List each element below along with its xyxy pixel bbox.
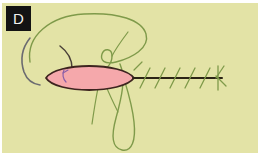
tail-barbs-icon — [134, 62, 210, 88]
cell-body-icon — [46, 66, 134, 90]
figure-panel: D — [0, 0, 260, 157]
green-loop-upper-icon — [30, 14, 147, 74]
neck-arc-icon — [60, 46, 72, 68]
drawing-canvas — [0, 0, 260, 157]
panel-label: D — [6, 6, 31, 31]
